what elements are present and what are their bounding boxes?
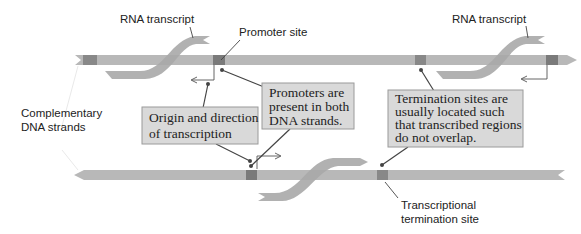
leader-promoters-top-dot <box>220 68 224 72</box>
leader-rna-left <box>190 27 193 38</box>
bottom-promoter-block <box>246 170 257 180</box>
callout-promoters-line2: present in both <box>269 99 349 114</box>
label-complementary-line1: Complementary <box>21 107 102 119</box>
callout-origin-line2: of transcription <box>149 126 232 141</box>
label-promoter-site: Promoter site <box>239 26 307 38</box>
leader-origin-top-dot <box>206 82 210 86</box>
leader-termination-top <box>421 70 434 91</box>
leader-origin-bottom <box>216 144 250 161</box>
label-transcriptional-line2: termination site <box>401 213 479 225</box>
leader-origin-top <box>203 84 208 108</box>
label-rna-transcript-left: RNA transcript <box>120 13 195 25</box>
promoter-site-block <box>213 55 225 65</box>
callout-promoters-line3: DNA strands. <box>269 113 343 128</box>
top-strand-site-middle <box>415 55 426 65</box>
leader-transcriptional-termination <box>385 182 398 198</box>
transcription-diagram: Origin and direction of transcription Pr… <box>0 0 581 234</box>
callout-origin-line1: Origin and direction <box>149 110 259 125</box>
top-strand-site-left <box>83 55 97 65</box>
top-strand-site-right <box>546 55 558 65</box>
leader-termination-bottom <box>382 147 408 165</box>
bracket-line-bottom <box>62 150 78 170</box>
callout-termination-line4: do not overlap. <box>395 130 476 145</box>
leader-promoters-bottom-dot <box>249 164 253 168</box>
callout-promoters-line1: Promoters are <box>269 85 344 100</box>
leader-termination-bottom-dot <box>380 163 384 167</box>
label-complementary-line2: DNA strands <box>21 121 86 133</box>
leader-origin-bottom-dot <box>248 159 252 163</box>
leader-termination-top-dot <box>419 68 423 72</box>
diagram-canvas: Origin and direction of transcription Pr… <box>0 0 581 234</box>
transcriptional-termination-block <box>377 170 388 180</box>
leader-promoters-top <box>222 70 264 87</box>
label-transcriptional-line1: Transcriptional <box>401 199 476 211</box>
label-rna-transcript-right: RNA transcript <box>452 13 527 25</box>
